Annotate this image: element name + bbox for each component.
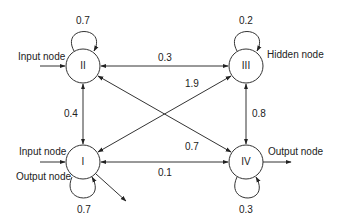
- weight-II-IV: 0.7: [185, 142, 199, 152]
- weight-I-III: 1.9: [185, 79, 199, 89]
- node-I-label: I: [66, 157, 100, 167]
- output-node-label-I: Output node: [16, 172, 71, 182]
- output-arrow-I: [96, 174, 126, 201]
- weight-self-II: 0.7: [76, 16, 90, 26]
- self-loop-III: [234, 32, 259, 52]
- output-node-label-IV: Output node: [268, 147, 323, 157]
- node-II-label: II: [66, 61, 100, 71]
- weight-self-IV: 0.3: [239, 205, 253, 215]
- node-III-label: III: [229, 61, 263, 71]
- input-node-label-II: Input node: [18, 52, 65, 62]
- weight-II-III: 0.3: [158, 53, 172, 63]
- weight-I-IV: 0.1: [158, 168, 172, 178]
- weight-self-I: 0.7: [77, 205, 91, 215]
- self-loop-I: [70, 177, 95, 198]
- network-diagram: II III I IV Input node Hidden node Input…: [0, 0, 337, 222]
- weight-III-IV: 0.8: [252, 109, 266, 119]
- diagram-graphics: [0, 0, 337, 222]
- self-loop-II: [71, 32, 96, 52]
- node-IV-label: IV: [229, 157, 263, 167]
- weight-self-III: 0.2: [239, 16, 253, 26]
- weight-II-I: 0.4: [64, 109, 78, 119]
- self-loop-IV: [235, 177, 260, 198]
- input-node-label-I: Input node: [19, 147, 66, 157]
- hidden-node-label: Hidden node: [267, 50, 324, 60]
